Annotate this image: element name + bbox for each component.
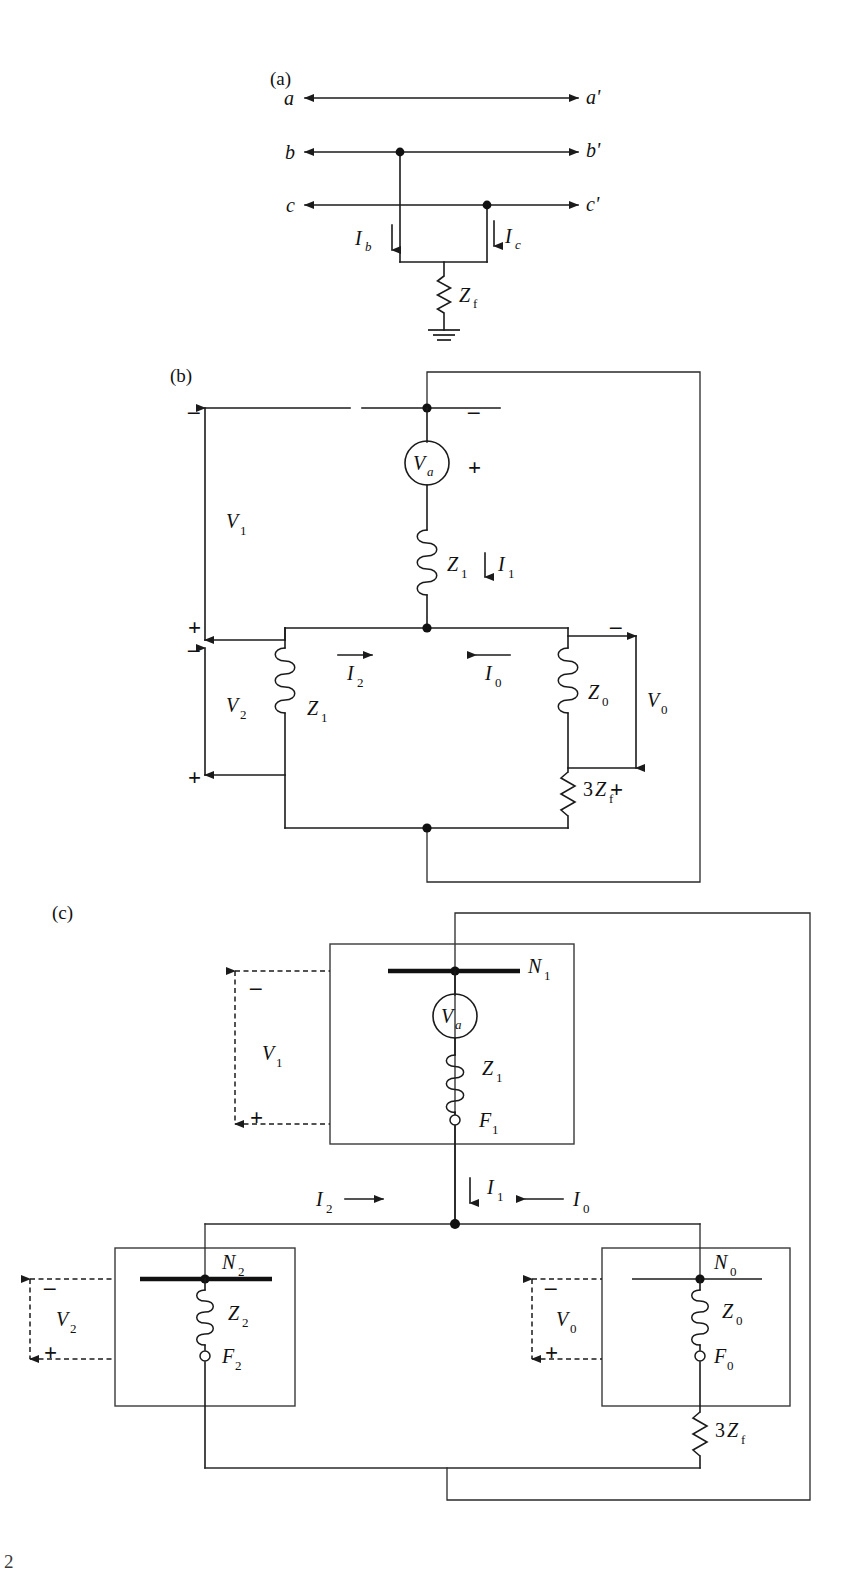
middle-node-b (422, 623, 431, 632)
bus-label-n2: N 2 (221, 1251, 245, 1279)
fault-junction-node-c (450, 1219, 460, 1229)
polarity-v0-plus-c: + (545, 1340, 558, 1365)
polarity-v1-minus-b: – (187, 399, 200, 424)
svg-text:0: 0 (583, 1201, 590, 1216)
impedance-label-z1-left-b: Z 1 (307, 697, 328, 725)
voltage-label-v1-b: V 1 (226, 510, 247, 538)
svg-text:1: 1 (321, 710, 328, 725)
svg-text:Z: Z (722, 1300, 734, 1322)
svg-text:V: V (647, 689, 662, 711)
page-artifact: 2 (4, 1551, 14, 1572)
svg-text:f: f (609, 791, 614, 806)
impedance-label-z0-c: Z 0 (722, 1300, 743, 1328)
svg-text:N: N (221, 1251, 237, 1273)
terminal-label-c: c (286, 194, 295, 216)
svg-text:0: 0 (570, 1321, 577, 1336)
svg-text:Z: Z (588, 681, 600, 703)
svg-text:F: F (478, 1109, 492, 1131)
bottom-node-b (422, 823, 431, 832)
svg-text:Z: Z (459, 284, 471, 306)
source-label-va-c: V a (441, 1005, 462, 1032)
svg-text:Z: Z (307, 697, 319, 719)
svg-text:F: F (713, 1345, 727, 1367)
impedance-z2-coil-c (197, 1290, 214, 1345)
svg-text:V: V (56, 1308, 71, 1330)
outer-return-loop-b (427, 372, 700, 882)
figure-page: (a) a a' b b' c c' I b I c Z f (b) – – +… (0, 0, 865, 1572)
svg-text:1: 1 (497, 1189, 504, 1204)
svg-text:1: 1 (492, 1122, 499, 1137)
terminal-label-a-prime: a' (586, 86, 601, 108)
svg-text:c: c (515, 237, 521, 252)
polarity-va-plus-b: + (468, 455, 481, 480)
svg-text:0: 0 (736, 1313, 743, 1328)
impedance-z0-coil-b (558, 648, 578, 713)
svg-text:V: V (556, 1308, 571, 1330)
impedance-z0-coil-c (692, 1290, 709, 1345)
svg-text:I: I (354, 227, 363, 249)
fault-terminal-f1 (450, 1115, 460, 1125)
polarity-v1-plus-c: + (250, 1105, 263, 1130)
svg-text:V: V (262, 1042, 277, 1064)
svg-text:1: 1 (544, 968, 551, 983)
current-label-i2-b: I 2 (346, 662, 364, 690)
svg-text:2: 2 (238, 1264, 245, 1279)
svg-text:V: V (413, 452, 428, 474)
terminal-label-a: a (284, 87, 294, 109)
polarity-va-minus-b: – (467, 399, 480, 424)
svg-text:b: b (365, 239, 372, 254)
svg-text:1: 1 (276, 1055, 283, 1070)
svg-text:I: I (497, 553, 506, 575)
polarity-v1-minus-c: – (249, 975, 262, 1000)
voltage-label-v2-c: V 2 (56, 1308, 77, 1336)
fault-label-f1: F 1 (478, 1109, 499, 1137)
current-label-i0-b: I 0 (484, 662, 502, 690)
svg-text:2: 2 (235, 1358, 242, 1373)
polarity-v2-minus-b: – (187, 637, 200, 662)
svg-text:I: I (486, 1176, 495, 1198)
svg-text:2: 2 (240, 707, 247, 722)
network-box-zero-sequence (602, 1248, 790, 1406)
voltage-label-v0-c: V 0 (556, 1308, 577, 1336)
impedance-label-3zf-c: 3 Z f (715, 1419, 746, 1447)
svg-text:F: F (221, 1345, 235, 1367)
svg-text:2: 2 (70, 1321, 77, 1336)
junction-dot-c (483, 201, 492, 210)
fault-label-f2: F 2 (221, 1345, 242, 1373)
svg-text:0: 0 (730, 1264, 737, 1279)
svg-text:f: f (741, 1432, 746, 1447)
svg-text:V: V (441, 1005, 456, 1027)
svg-text:I: I (572, 1188, 581, 1210)
svg-text:N: N (713, 1251, 729, 1273)
polarity-v0-minus-b: – (609, 614, 622, 639)
svg-text:2: 2 (357, 675, 364, 690)
current-label-i0-c: I 0 (572, 1188, 590, 1216)
svg-text:I: I (346, 662, 355, 684)
svg-text:Z: Z (727, 1419, 739, 1441)
svg-text:1: 1 (461, 566, 468, 581)
svg-text:I: I (504, 225, 513, 247)
svg-text:Z: Z (228, 1302, 240, 1324)
svg-text:2: 2 (326, 1201, 333, 1216)
impedance-z1-coil-b (417, 530, 437, 595)
impedance-label-z0-b: Z 0 (588, 681, 609, 709)
impedance-3zf-symbol-c (693, 1412, 707, 1456)
fault-label-f0: F 0 (713, 1345, 734, 1373)
svg-text:0: 0 (727, 1358, 734, 1373)
polarity-v2-plus-c: + (44, 1340, 57, 1365)
svg-text:f: f (473, 296, 478, 311)
impedance-3zf-symbol-b (561, 772, 575, 816)
svg-text:3: 3 (715, 1419, 725, 1441)
terminal-label-b: b (285, 141, 295, 163)
voltage-label-v1-c: V 1 (262, 1042, 283, 1070)
voltage-label-v2-b: V 2 (226, 694, 247, 722)
outer-return-loop-c (447, 913, 810, 1500)
svg-text:V: V (226, 694, 241, 716)
svg-text:1: 1 (496, 1070, 503, 1085)
svg-text:Z: Z (447, 553, 459, 575)
panel-b-label: (b) (170, 365, 192, 387)
polarity-v0-minus-c: – (544, 1275, 557, 1300)
svg-text:a: a (455, 1017, 462, 1032)
svg-text:a: a (427, 464, 434, 479)
panel-c-label: (c) (52, 902, 73, 924)
